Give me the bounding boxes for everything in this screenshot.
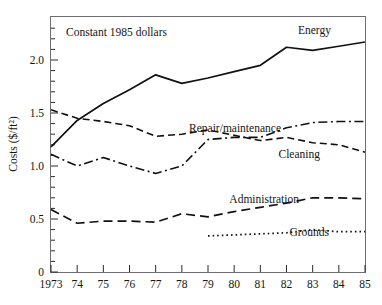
line-chart: 00.51.01.52.0 19737475767778798081828384…: [0, 0, 382, 305]
x-tick-label: 78: [176, 278, 188, 290]
figure-container: 00.51.01.52.0 19737475767778798081828384…: [0, 0, 382, 305]
series-label-cleaning: Cleaning: [278, 148, 320, 161]
series-line-administration: [51, 198, 365, 223]
series-label-repair-maintenance: Repair/maintenance: [189, 122, 281, 135]
y-axis-ticks: [51, 28, 58, 272]
chart-annotation: Constant 1985 dollars: [66, 26, 167, 38]
y-tick-label: 2.0: [30, 54, 45, 66]
x-tick-label: 77: [150, 278, 162, 290]
x-tick-label: 84: [333, 278, 345, 290]
x-tick-label: 75: [98, 278, 110, 290]
series-label-energy: Energy: [298, 24, 331, 37]
series-group: [51, 42, 365, 236]
x-tick-label: 83: [307, 278, 319, 290]
y-axis-title: Costs ($/ft²): [7, 116, 20, 172]
series-line-grounds: [208, 230, 365, 236]
series-labels: EnergyRepair/maintenanceCleaningAdminist…: [189, 24, 331, 238]
y-tick-label: 0: [38, 266, 44, 278]
y-tick-label: 1.0: [30, 160, 45, 172]
x-axis-tick-labels: 1973747576777879808182838485: [40, 278, 372, 290]
x-tick-label: 74: [71, 278, 83, 290]
y-tick-label: 0.5: [30, 213, 45, 225]
x-tick-label: 76: [124, 278, 136, 290]
x-tick-label: 80: [228, 278, 240, 290]
x-axis-ticks: [51, 265, 365, 272]
x-tick-label: 81: [255, 278, 267, 290]
x-tick-label: 79: [202, 278, 214, 290]
x-tick-label: 85: [359, 278, 371, 290]
x-tick-label: 1973: [40, 278, 63, 290]
series-label-administration: Administration: [229, 193, 299, 205]
x-tick-label: 82: [281, 278, 293, 290]
y-axis-tick-labels: 00.51.01.52.0: [30, 54, 45, 278]
y-tick-label: 1.5: [30, 107, 45, 119]
series-label-grounds: Grounds: [289, 226, 329, 238]
